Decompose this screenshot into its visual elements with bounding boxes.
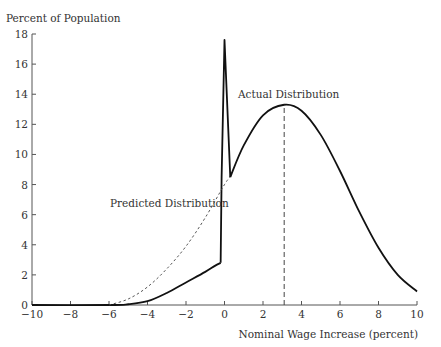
y-tick-label: 18 <box>15 28 28 40</box>
x-axis-label: Nominal Wage Increase (percent) <box>239 328 418 340</box>
x-tick-label: 6 <box>337 308 344 320</box>
y-axis-label: Percent of Population <box>6 12 121 24</box>
y-tick-label: 12 <box>15 118 28 130</box>
y-tick-label: 6 <box>21 209 28 221</box>
actual-distribution-line <box>32 263 221 305</box>
y-tick-label: 8 <box>21 179 28 191</box>
x-tick-label: 0 <box>221 308 228 320</box>
annotation-predicted-distribution: Predicted Distribution <box>110 197 229 209</box>
chart: −10−8−6−4−20246810024681012141618 Percen… <box>0 0 441 347</box>
x-tick-label: 10 <box>410 308 423 320</box>
y-tick-label: 0 <box>21 299 28 311</box>
x-tick-label: −6 <box>101 308 117 320</box>
y-tick-label: 10 <box>15 148 28 160</box>
y-tick-label: 4 <box>21 239 28 251</box>
x-tick-label: −2 <box>178 308 193 320</box>
y-tick-label: 16 <box>15 58 29 70</box>
x-tick-label: 8 <box>375 308 382 320</box>
actual-distribution-line <box>221 40 231 263</box>
ticks: −10−8−6−4−20246810024681012141618 <box>15 28 424 320</box>
y-tick-label: 2 <box>21 269 28 281</box>
y-tick-label: 14 <box>15 88 29 100</box>
x-tick-label: −8 <box>63 308 78 320</box>
annotation-actual-distribution: Actual Distribution <box>237 88 340 100</box>
curves <box>32 40 417 305</box>
x-tick-label: 4 <box>298 308 305 320</box>
actual-distribution-line <box>230 105 417 292</box>
x-tick-label: 2 <box>260 308 267 320</box>
x-tick-label: −4 <box>140 308 156 320</box>
